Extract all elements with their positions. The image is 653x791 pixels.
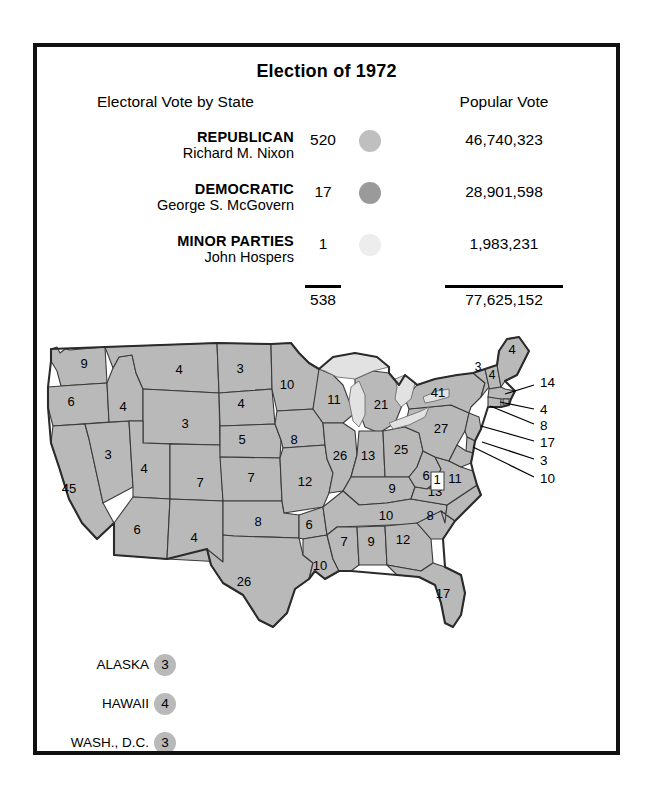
callout-line-CT	[490, 406, 534, 424]
state-MN	[271, 343, 319, 411]
ev-label-CA: 45	[62, 481, 76, 496]
popular-total-rule	[445, 285, 563, 288]
ev-label-VT: 3	[475, 360, 482, 374]
ev-label-TN: 10	[379, 508, 393, 523]
inset-value-alaska: 3	[161, 657, 169, 672]
electoral-votes-value: 1	[299, 235, 347, 253]
ev-label-NH: 4	[489, 368, 496, 382]
ev-label-TX: 26	[237, 574, 251, 589]
ev-label-ID: 4	[119, 399, 126, 414]
inset-value-hawaii: 4	[161, 696, 169, 711]
inset-label-washington-dc: WASH., D.C.	[71, 735, 149, 750]
state-OR	[48, 383, 109, 426]
ev-label-MT: 4	[175, 362, 182, 377]
ev-label-AZ: 6	[133, 522, 140, 537]
legend-row-democratic: DEMOCRATIC George S. McGovern 17 28,901,…	[37, 181, 616, 233]
callout-label-NJ: 17	[540, 435, 555, 450]
ev-label-WI: 11	[327, 392, 341, 407]
ev-label-SC: 8	[426, 508, 433, 523]
popular-votes-value: 1,983,231	[429, 235, 579, 253]
election-map-figure: Election of 1972 Electoral Vote by State…	[33, 43, 620, 755]
ev-label-IL: 26	[333, 448, 347, 463]
ev-label-SD: 4	[237, 396, 244, 411]
party-name: MINOR PARTIES	[97, 233, 294, 249]
state-SD	[219, 389, 275, 426]
democratic-swatch	[359, 182, 381, 204]
ev-label-ND: 3	[236, 361, 243, 376]
state-ND	[217, 343, 272, 393]
state-WA	[51, 347, 107, 386]
ev-label-IN: 13	[361, 448, 375, 463]
ev-label-NY: 41	[431, 385, 445, 400]
candidate-name: John Hospers	[97, 249, 294, 265]
ev-label-ME: 4	[508, 342, 515, 357]
totals-row: 538 77,625,152	[37, 285, 616, 325]
ev-label-WV: 6	[422, 468, 429, 483]
ev-label-MS: 7	[340, 534, 347, 549]
candidate-name: George S. McGovern	[97, 197, 294, 213]
electoral-votes-value: 520	[299, 131, 347, 149]
ev-label-FL: 17	[436, 586, 450, 601]
ev-label-LA: 10	[313, 558, 327, 573]
results-legend: REPUBLICAN Richard M. Nixon 520 46,740,3…	[37, 129, 616, 285]
minor-parties-swatch	[359, 234, 381, 256]
ev-label-CO: 7	[196, 475, 203, 490]
ev-label-NM: 4	[190, 530, 197, 545]
ev-label-DC: 1	[433, 472, 440, 487]
popular-total-value: 77,625,152	[429, 291, 579, 309]
ev-label-OK: 8	[254, 514, 261, 529]
us-electoral-map: 9 6 45 3 4 4 3 4 6 7 4 3 4 5 7 8 26 10 8…	[37, 327, 616, 751]
ev-label-WY: 3	[181, 416, 188, 431]
callout-label-DE: 3	[540, 453, 548, 468]
state-AR	[299, 507, 327, 539]
ev-label-UT: 4	[140, 461, 147, 476]
callout-label-CT: 8	[540, 418, 548, 433]
ev-label-IA: 8	[290, 432, 297, 447]
inset-rows: ALASKA 3 HAWAII 4 WASH., D.C. 3	[71, 654, 176, 751]
ev-label-GA: 12	[396, 532, 410, 547]
ev-label-OR: 6	[67, 394, 74, 409]
state-AZ	[114, 497, 170, 559]
callout-line-DE	[482, 442, 534, 459]
electoral-total-rule	[305, 285, 341, 288]
state-FL	[387, 563, 465, 627]
column-header-electoral: Electoral Vote by State	[97, 93, 254, 111]
ev-label-KS: 7	[247, 470, 254, 485]
ev-label-AR: 6	[305, 517, 312, 532]
republican-swatch	[359, 130, 381, 152]
ev-label-NV: 3	[104, 447, 111, 462]
callout-label-RI: 4	[540, 402, 548, 417]
state-CO	[170, 444, 223, 501]
ev-label-VA: 11	[448, 471, 462, 486]
state-CT	[488, 397, 501, 407]
ev-label-MN: 10	[280, 377, 294, 392]
party-block: DEMOCRATIC George S. McGovern	[97, 181, 294, 213]
ev-label-MI: 21	[374, 397, 388, 412]
ev-label-AL: 9	[367, 534, 374, 549]
inset-label-hawaii: HAWAII	[102, 696, 149, 711]
callout-line-NJ	[481, 426, 534, 441]
callout-label-MA: 14	[540, 375, 556, 390]
page-title: Election of 1972	[37, 61, 616, 82]
party-name: REPUBLICAN	[97, 129, 294, 145]
party-block: REPUBLICAN Richard M. Nixon	[97, 129, 294, 161]
ev-label-KY: 9	[388, 481, 395, 496]
popular-votes-value: 28,901,598	[429, 183, 579, 201]
inset-label-alaska: ALASKA	[96, 657, 149, 672]
ev-label-OH: 25	[394, 442, 408, 457]
candidate-name: Richard M. Nixon	[97, 145, 294, 161]
party-block: MINOR PARTIES John Hospers	[97, 233, 294, 265]
legend-row-republican: REPUBLICAN Richard M. Nixon 520 46,740,3…	[37, 129, 616, 181]
popular-votes-value: 46,740,323	[429, 131, 579, 149]
ev-label-NE: 5	[238, 432, 245, 447]
electoral-total-value: 538	[299, 291, 347, 309]
ev-label-MO: 12	[298, 474, 312, 489]
ev-label-PA: 27	[434, 421, 448, 436]
ev-label-WA: 9	[80, 356, 87, 371]
dc-marker: 1	[431, 472, 444, 490]
electoral-votes-value: 17	[299, 183, 347, 201]
inset-value-washington-dc: 3	[161, 735, 169, 750]
callout-line-MD	[473, 447, 534, 477]
map-svg: 9 6 45 3 4 4 3 4 6 7 4 3 4 5 7 8 26 10 8…	[37, 327, 616, 751]
state-NE	[220, 424, 281, 458]
